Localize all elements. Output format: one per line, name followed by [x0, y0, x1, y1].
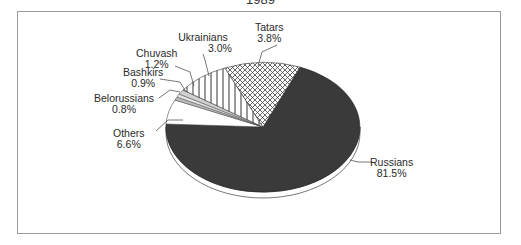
label-belorussians: Belorussians 0.8%: [94, 93, 154, 115]
label-bashkirs: Bashkirs 0.9%: [123, 67, 163, 89]
label-others: Others 6.6%: [113, 128, 145, 150]
label-tatars: Tatars 3.8%: [255, 22, 284, 44]
label-russians: Russians 81.5%: [370, 157, 413, 179]
label-ukrainians: Ukrainians 3.0%: [174, 32, 232, 54]
